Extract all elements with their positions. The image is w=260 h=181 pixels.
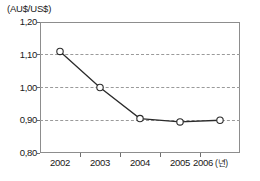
data-point-2006 bbox=[217, 117, 223, 123]
series-line-au-us bbox=[60, 51, 220, 121]
series-markers bbox=[57, 48, 223, 125]
exchange-rate-line-chart: (AU$/US$) 1,201,101,000,900,80 200220032… bbox=[0, 0, 260, 181]
series-layer bbox=[0, 0, 260, 181]
data-point-2005 bbox=[177, 119, 183, 125]
data-point-2003 bbox=[97, 84, 103, 90]
data-point-2004 bbox=[137, 115, 143, 121]
data-point-2002 bbox=[57, 48, 63, 54]
